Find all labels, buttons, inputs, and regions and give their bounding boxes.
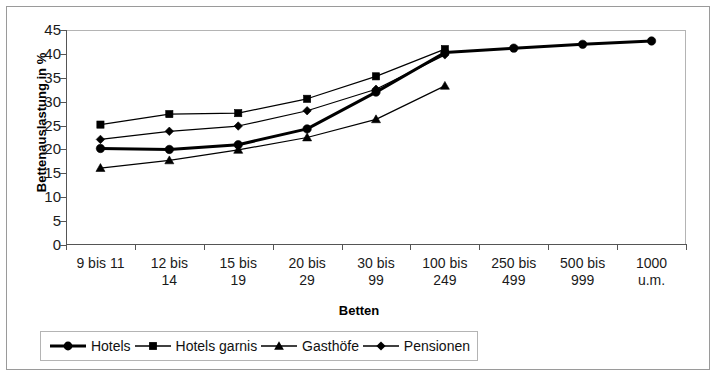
y-tick-label: 30 xyxy=(27,97,61,107)
legend-swatch-circle-icon xyxy=(48,338,88,354)
x-axis-title: Betten xyxy=(7,303,711,318)
data-point-diamond xyxy=(96,135,104,143)
y-tick-label: 0 xyxy=(27,240,61,250)
y-tick-mark xyxy=(60,197,66,198)
y-tick-mark xyxy=(60,54,66,55)
x-tick-mark xyxy=(617,245,618,250)
data-point-diamond xyxy=(165,127,173,135)
y-tick-mark xyxy=(60,30,66,31)
x-tick-label-line1: 30 bis xyxy=(357,255,394,271)
y-tick-label: 15 xyxy=(27,168,61,178)
data-point-square xyxy=(235,110,242,117)
x-tick-label-line2: u.m. xyxy=(638,272,665,288)
x-tick-mark xyxy=(342,245,343,250)
y-tick-label: 45 xyxy=(27,25,61,35)
data-point-diamond xyxy=(303,106,311,114)
y-tick-label: 40 xyxy=(27,49,61,59)
legend-swatch-diamond-icon xyxy=(361,338,401,354)
chart-figure: Bettenauslastung in % 9 bis 1112 bis1415… xyxy=(6,6,710,370)
data-point-square xyxy=(372,73,379,80)
x-tick-mark xyxy=(686,245,687,250)
legend-item-hotels[interactable]: Hotels xyxy=(48,338,131,354)
x-tick-mark xyxy=(548,245,549,250)
series-line xyxy=(100,55,444,140)
y-tick-label: 5 xyxy=(27,216,61,226)
data-point-circle xyxy=(647,37,655,45)
data-point-triangle xyxy=(440,81,449,89)
y-tick-label: 20 xyxy=(27,144,61,154)
x-tick-mark xyxy=(273,245,274,250)
x-tick-mark xyxy=(204,245,205,250)
data-point-circle xyxy=(510,44,518,52)
y-tick-mark xyxy=(60,149,66,150)
x-tick-label-line2: 19 xyxy=(230,272,246,288)
x-tick-label-line1: 250 bis xyxy=(491,255,536,271)
y-tick-mark xyxy=(60,78,66,79)
data-point-square xyxy=(166,110,173,117)
x-tick-label-line1: 1000 xyxy=(636,255,667,271)
x-tick-label-line2: 249 xyxy=(433,272,456,288)
y-tick-mark xyxy=(60,126,66,127)
data-point-triangle xyxy=(372,115,381,123)
x-tick-mark xyxy=(410,245,411,250)
x-tick-label-line1: 9 bis 11 xyxy=(76,255,124,271)
series-hotels xyxy=(96,37,656,154)
data-point-circle xyxy=(96,144,104,152)
series-hotels-garnis xyxy=(97,46,449,129)
legend-item-gasthöfe[interactable]: Gasthöfe xyxy=(259,338,359,354)
legend-item-pensionen[interactable]: Pensionen xyxy=(361,338,470,354)
series-gasthöfe xyxy=(96,81,449,171)
y-tick-mark xyxy=(60,221,66,222)
x-tick-label-line1: 500 bis xyxy=(560,255,605,271)
legend-swatch-triangle-icon xyxy=(259,338,299,354)
data-point-circle xyxy=(578,40,586,48)
plot-area: Bettenauslastung in % 9 bis 1112 bis1415… xyxy=(7,7,711,297)
data-point-square xyxy=(304,95,311,102)
series-pensionen xyxy=(96,51,449,144)
x-tick-label-line2: 29 xyxy=(299,272,315,288)
x-tick-mark xyxy=(66,245,67,250)
y-tick-mark xyxy=(60,102,66,103)
chart-legend: HotelsHotels garnisGasthöfePensionen xyxy=(40,331,478,361)
y-tick-label: 25 xyxy=(27,121,61,131)
data-point-diamond xyxy=(234,122,242,130)
x-tick-label-line1: 20 bis xyxy=(288,255,325,271)
data-point-square xyxy=(97,121,104,128)
x-tick-mark xyxy=(479,245,480,250)
x-tick-label-line1: 15 bis xyxy=(220,255,257,271)
chart-canvas xyxy=(66,30,686,245)
legend-label: Hotels garnis xyxy=(176,338,258,354)
y-tick-mark xyxy=(60,173,66,174)
data-point-circle xyxy=(165,145,173,153)
x-tick-label-line1: 12 bis xyxy=(151,255,188,271)
x-tick-label-line2: 499 xyxy=(502,272,525,288)
x-tick-label-line2: 999 xyxy=(571,272,594,288)
x-tick-label: 1000u.m. xyxy=(609,255,695,289)
y-tick-label: 35 xyxy=(27,73,61,83)
legend-label: Pensionen xyxy=(404,338,470,354)
x-tick-label-line2: 99 xyxy=(368,272,384,288)
data-point-circle xyxy=(303,125,311,133)
x-tick-label-line1: 100 bis xyxy=(422,255,467,271)
x-axis-tick-labels: 9 bis 1112 bis1415 bis1920 bis2930 bis99… xyxy=(66,255,686,301)
series-line xyxy=(100,49,444,124)
series-line xyxy=(100,86,444,168)
legend-label: Hotels xyxy=(91,338,131,354)
x-tick-label-line2: 14 xyxy=(162,272,178,288)
legend-label: Gasthöfe xyxy=(302,338,359,354)
legend-item-hotels-garnis[interactable]: Hotels garnis xyxy=(133,338,258,354)
legend-swatch-square-icon xyxy=(133,338,173,354)
y-tick-label: 10 xyxy=(27,192,61,202)
x-tick-mark xyxy=(135,245,136,250)
